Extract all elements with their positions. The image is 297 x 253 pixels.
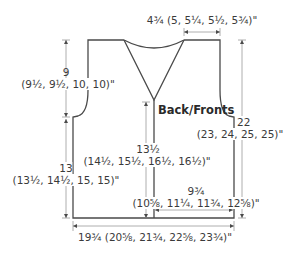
piece-title: Back/Fronts bbox=[158, 104, 234, 116]
shoulder-width-label: 4¾ (5, 5¼, 5½, 5¾)" bbox=[147, 14, 258, 26]
total-length-main: 22 bbox=[237, 116, 250, 128]
side-length-main: 13 bbox=[59, 162, 72, 174]
schematic-drawing bbox=[0, 0, 297, 253]
total-length-sizes: (23, 24, 25, 25)" bbox=[197, 128, 284, 140]
armhole-depth-sizes: (9½, 9½, 10, 10)" bbox=[21, 78, 115, 90]
front-length-sizes: (14½, 15½, 16½, 16½)" bbox=[83, 155, 210, 167]
front-width-main: 9¾ bbox=[188, 185, 205, 197]
front-length-main: 13½ bbox=[136, 143, 160, 155]
side-length-sizes: (13½, 14½, 15, 15)" bbox=[13, 174, 120, 186]
back-width-label: 19¾ (20⅝, 21¾, 22⅝, 23¾)" bbox=[78, 231, 232, 243]
front-width-sizes: (10⅝, 11¼, 11¾, 12⅝)" bbox=[132, 197, 259, 209]
armhole-depth-main: 9 bbox=[63, 66, 70, 78]
